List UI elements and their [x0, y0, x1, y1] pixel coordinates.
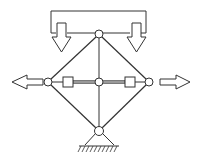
- node-left: [44, 78, 52, 86]
- node-center: [95, 78, 103, 86]
- right-slider: [125, 77, 135, 87]
- arrow-left-icon: [12, 75, 43, 89]
- arrow-right-icon: [160, 75, 190, 89]
- linkage-diagram: [0, 0, 198, 162]
- node-top: [95, 30, 103, 38]
- link-bottom-right: [102, 85, 146, 128]
- node-bottom: [95, 127, 104, 136]
- ground-hatching: [78, 146, 117, 152]
- arrow-down-left-icon: [52, 23, 71, 52]
- arrow-down-right-icon: [127, 23, 146, 52]
- left-slider: [63, 77, 73, 87]
- diagram-canvas: [0, 0, 198, 162]
- link-bottom-left: [51, 85, 96, 128]
- node-right: [145, 78, 153, 86]
